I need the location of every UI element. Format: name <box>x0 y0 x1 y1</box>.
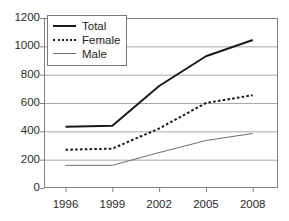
chart-legend: Total Female Male <box>47 15 127 66</box>
legend-label-total: Total <box>82 20 106 32</box>
x-axis-tick-label: 1999 <box>90 198 134 211</box>
y-axis-tick-labels: 020040060080010001200 <box>0 0 40 221</box>
series-line-male <box>66 133 253 165</box>
data-series-layer <box>0 0 289 221</box>
x-axis-tick-labels: 19961999200220052008 <box>0 192 289 212</box>
series-line-female <box>66 95 253 150</box>
y-axis-tick-label: 800 <box>2 69 40 80</box>
x-axis-tick-label: 2005 <box>184 198 228 211</box>
legend-line-total-icon <box>53 21 76 31</box>
y-axis-tick-label: 200 <box>2 154 40 165</box>
y-axis-tick-label: 600 <box>2 97 40 108</box>
x-axis-tick-label: 2008 <box>231 198 275 211</box>
y-axis-tick-label: 1000 <box>2 40 40 51</box>
legend-line-female-icon <box>53 35 76 45</box>
legend-item-female: Female <box>53 33 120 47</box>
legend-line-male-icon <box>53 49 76 59</box>
x-axis-tick-label: 1996 <box>44 198 88 211</box>
x-axis-tick-label: 2002 <box>137 198 181 211</box>
y-axis-tick-label: 400 <box>2 125 40 136</box>
legend-label-male: Male <box>82 48 107 60</box>
chart-screenshot: 020040060080010001200 199619992002200520… <box>0 0 289 221</box>
y-axis-tick-label: 1200 <box>2 12 40 23</box>
legend-label-female: Female <box>82 34 120 46</box>
legend-item-total: Total <box>53 19 120 33</box>
legend-item-male: Male <box>53 47 120 61</box>
